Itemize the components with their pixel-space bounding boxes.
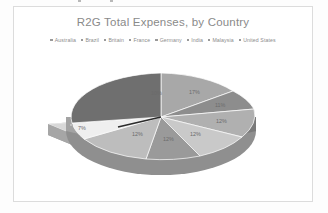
pie-chart-plot-area: 17%11%12%12%12%12%7%10% [14, 51, 312, 201]
bleed-mark-2 [110, 0, 113, 2]
explode-handle [70, 124, 73, 127]
legend-item-label: France [133, 37, 150, 43]
legend-item-france[interactable]: France [129, 37, 150, 43]
legend-marker-icon [155, 39, 158, 42]
legend-marker-icon [50, 39, 53, 42]
legend-item-label: Brazil [85, 37, 99, 43]
legend-item-label: India [191, 37, 203, 43]
legend-item-label: Germany [160, 37, 182, 43]
legend-item-australia[interactable]: Australia [50, 37, 76, 43]
legend-item-label: United States [243, 37, 275, 43]
pie-chart-svg [14, 51, 312, 201]
legend-item-malaysia[interactable]: Malaysia [208, 37, 234, 43]
legend-marker-icon [81, 39, 84, 42]
legend-marker-icon [104, 39, 107, 42]
chart-title: R2G Total Expenses, by Country [14, 16, 312, 28]
legend-item-britain[interactable]: Britain [104, 37, 124, 43]
legend-item-germany[interactable]: Germany [155, 37, 182, 43]
legend-item-united-states[interactable]: United States [239, 37, 276, 43]
chart-card: R2G Total Expenses, by Country Australia… [13, 6, 313, 202]
legend-marker-icon [187, 39, 190, 42]
legend-item-label: Australia [55, 37, 76, 43]
legend-marker-icon [239, 39, 242, 42]
bleed-mark-1 [78, 0, 81, 2]
chart-legend: AustraliaBrazilBritainFranceGermanyIndia… [14, 37, 312, 43]
legend-item-label: Britain [108, 37, 123, 43]
legend-marker-icon [129, 39, 132, 42]
legend-item-brazil[interactable]: Brazil [81, 37, 99, 43]
legend-marker-icon [208, 39, 211, 42]
top-edge-artifact [0, 0, 328, 4]
pie-slices-top [71, 73, 255, 160]
screenshot-root: R2G Total Expenses, by Country Australia… [0, 0, 328, 213]
legend-item-label: Malaysia [212, 37, 233, 43]
legend-item-india[interactable]: India [187, 37, 203, 43]
